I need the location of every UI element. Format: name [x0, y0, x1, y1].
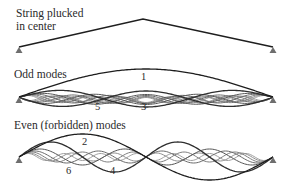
mode-label-2: 2	[82, 136, 87, 147]
mode-label-3: 3	[141, 101, 146, 112]
caption-even-modes: Even (forbidden) modes	[14, 119, 126, 132]
mode-label-6: 6	[66, 165, 71, 176]
mode-label-1: 1	[141, 71, 146, 82]
mode-label-4: 4	[110, 165, 116, 176]
caption-plucked-line1: String plucked	[16, 7, 84, 20]
caption-odd-modes: Odd modes	[14, 68, 67, 80]
vibrating-string-modes-diagram: String plucked in center Odd modes 1 5 3…	[0, 0, 293, 194]
mode-label-5: 5	[95, 101, 100, 112]
caption-plucked-line2: in center	[16, 20, 56, 32]
